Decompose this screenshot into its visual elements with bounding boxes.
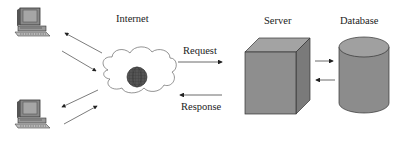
cloud-globe-icon — [103, 47, 176, 93]
server-database-arrows — [315, 61, 335, 80]
database-cylinder-icon — [339, 37, 389, 113]
server-box-icon — [245, 38, 310, 114]
desktop-computer-icon — [15, 100, 50, 128]
desktop-computer-icon — [15, 8, 50, 36]
client-arrows — [62, 33, 102, 124]
request-label: Request — [183, 45, 217, 56]
database-label: Database — [340, 15, 378, 26]
server-label: Server — [264, 15, 291, 26]
internet-label: Internet — [116, 13, 149, 24]
response-label: Response — [181, 101, 221, 112]
